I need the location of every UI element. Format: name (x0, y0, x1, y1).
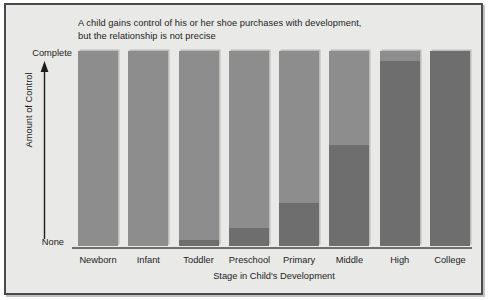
bar-fill-college (430, 51, 470, 246)
x-tick-preschool: Preschool (229, 255, 269, 265)
bar-preschool (229, 51, 269, 246)
x-tick-college: College (430, 255, 470, 265)
chart-figure: A child gains control of his or her shoe… (4, 3, 483, 295)
x-axis-title: Stage in Child's Development (78, 271, 470, 281)
bar-fill-preschool (229, 228, 269, 246)
bar-newborn (78, 51, 118, 246)
plot-area (78, 51, 470, 249)
chart-title-line-1: A child gains control of his or her shoe… (78, 17, 434, 30)
y-axis-title: Amount of Control (24, 45, 34, 175)
bar-group (78, 51, 470, 246)
bar-high (380, 51, 420, 246)
bar-fill-toddler (179, 240, 219, 246)
y-axis-max-label: Complete (32, 48, 72, 58)
x-tick-high: High (380, 255, 420, 265)
x-axis-tick-labels: Newborn Infant Toddler Preschool Primary… (78, 255, 470, 265)
x-tick-toddler: Toddler (179, 255, 219, 265)
bar-college (430, 51, 470, 246)
bar-fill-primary (279, 203, 319, 246)
bar-toddler (179, 51, 219, 246)
x-tick-newborn: Newborn (78, 255, 118, 265)
bar-fill-high (380, 61, 420, 246)
bar-infant (128, 51, 168, 246)
bar-fill-middle (329, 145, 369, 246)
x-tick-infant: Infant (128, 255, 168, 265)
chart-title: A child gains control of his or her shoe… (78, 17, 434, 43)
y-axis: Complete None Amount of Control (6, 5, 78, 297)
x-tick-middle: Middle (329, 255, 369, 265)
bar-primary (279, 51, 319, 246)
chart-title-line-2: but the relationship is not precise (78, 30, 434, 43)
y-axis-arrow-icon (39, 61, 50, 239)
bar-middle (329, 51, 369, 246)
x-tick-primary: Primary (279, 255, 319, 265)
x-axis-line (72, 247, 472, 249)
